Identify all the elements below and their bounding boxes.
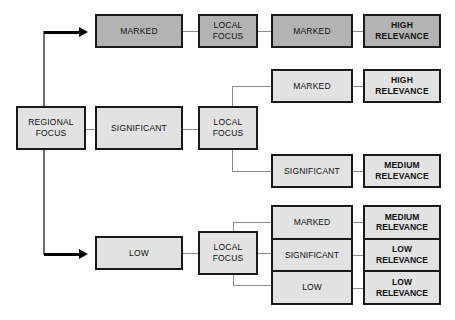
node-regional-focus-line2: FOCUS: [36, 128, 67, 139]
trunk-up: [43, 31, 45, 106]
node-mid-outcome-high-relevance: HIGH RELEVANCE: [363, 69, 441, 103]
node-bottom-local-focus-line2: FOCUS: [213, 253, 244, 264]
node-mid-local-focus-line2: FOCUS: [213, 128, 244, 139]
node-bottom-low-label: LOW: [129, 248, 149, 259]
node-mid-child-marked: MARKED: [271, 69, 353, 103]
node-bottom-outcome-3-line2: RELEVANCE: [376, 288, 428, 299]
node-regional-focus: REGIONAL FOCUS: [16, 106, 86, 150]
connector-mid-0: [86, 129, 95, 130]
connector-mid-1: [183, 129, 198, 130]
node-mid-local-focus: LOCAL FOCUS: [198, 106, 258, 150]
node-top-outcome-high-relevance: HIGH RELEVANCE: [363, 14, 441, 48]
trunk-down: [43, 150, 45, 255]
connector-bottom-up-h: [233, 222, 271, 223]
arrow-line-top: [44, 31, 80, 34]
node-bottom-low: LOW: [95, 236, 183, 270]
node-top-local-focus-line1: LOCAL: [214, 20, 243, 31]
node-bottom-outcome-1-line1: MEDIUM: [385, 212, 419, 223]
connector-mid-down-v: [232, 150, 233, 172]
node-mid-b-outcome-line2: RELEVANCE: [375, 171, 429, 182]
node-bottom-outcome-1-line2: RELEVANCE: [376, 222, 428, 233]
node-bottom-outcome-low-relevance-1: LOW RELEVANCE: [365, 240, 439, 273]
node-bottom-child-marked: MARKED: [273, 207, 351, 240]
connector-mid-up-h: [232, 86, 271, 87]
connector-bottom-up-v: [233, 222, 234, 231]
node-top-marked: MARKED: [95, 14, 183, 48]
node-bottom-outcome-2-line1: LOW: [392, 244, 412, 255]
node-top-outcome-line1: HIGH: [391, 20, 413, 31]
node-top-local-focus-line2: FOCUS: [213, 31, 244, 42]
node-mid-child-significant: SIGNIFICANT: [271, 154, 353, 188]
stack-bottom-outcomes: MEDIUM RELEVANCE LOW RELEVANCE LOW RELEV…: [363, 205, 441, 305]
node-mid-a-outcome-line2: RELEVANCE: [375, 86, 429, 97]
node-mid-a-outcome-line1: HIGH: [391, 75, 413, 86]
node-bottom-child-significant: SIGNIFICANT: [273, 240, 351, 273]
node-regional-focus-line1: REGIONAL: [28, 117, 74, 128]
connector-top-3: [353, 31, 363, 32]
arrow-head-bottom: [79, 249, 88, 259]
node-mid-child-significant-label: SIGNIFICANT: [284, 166, 340, 177]
node-mid-outcome-medium-relevance: MEDIUM RELEVANCE: [363, 154, 441, 188]
node-top-local-focus: LOCAL FOCUS: [198, 14, 258, 48]
connector-top-1: [183, 31, 198, 32]
flowchart-diagram: MARKED LOCAL FOCUS MARKED HIGH RELEVANCE…: [0, 0, 455, 320]
node-bottom-outcome-3-line1: LOW: [392, 277, 412, 288]
node-top-outcome-line2: RELEVANCE: [375, 31, 429, 42]
node-mid-b-outcome-line1: MEDIUM: [384, 160, 420, 171]
node-top-marked-2-label: MARKED: [293, 26, 331, 37]
arrow-line-bottom: [44, 253, 80, 256]
connector-top-2: [258, 31, 271, 32]
node-bottom-child-low: LOW: [273, 272, 351, 303]
node-mid-significant-label: SIGNIFICANT: [111, 123, 167, 134]
connector-bottom-out-1: [353, 222, 363, 223]
node-top-marked-label: MARKED: [120, 26, 158, 37]
arrow-head-top: [79, 27, 88, 37]
connector-bottom-out-2: [353, 255, 363, 256]
connector-mid-down-h: [232, 171, 271, 172]
node-mid-local-focus-line1: LOCAL: [214, 117, 243, 128]
node-mid-child-marked-label: MARKED: [293, 81, 331, 92]
connector-bottom-down-h: [233, 285, 271, 286]
node-bottom-outcome-medium-relevance: MEDIUM RELEVANCE: [365, 207, 439, 240]
node-bottom-child-marked-label: MARKED: [294, 217, 330, 228]
node-mid-significant: SIGNIFICANT: [95, 106, 183, 150]
node-bottom-child-low-label: LOW: [302, 282, 321, 293]
node-bottom-child-significant-label: SIGNIFICANT: [285, 250, 339, 261]
connector-mid-b-out: [353, 171, 363, 172]
node-bottom-outcome-low-relevance-2: LOW RELEVANCE: [365, 272, 439, 303]
connector-mid-a-out: [353, 86, 363, 87]
connector-mid-up-v: [232, 86, 233, 106]
node-top-marked-2: MARKED: [271, 14, 353, 48]
stack-bottom-levels: MARKED SIGNIFICANT LOW: [271, 205, 353, 305]
connector-bottom-mid-h: [258, 253, 271, 254]
connector-bottom-1: [183, 253, 198, 254]
node-bottom-outcome-2-line2: RELEVANCE: [376, 255, 428, 266]
connector-bottom-out-3: [353, 288, 363, 289]
node-bottom-local-focus: LOCAL FOCUS: [198, 231, 258, 275]
node-bottom-local-focus-line1: LOCAL: [214, 242, 243, 253]
